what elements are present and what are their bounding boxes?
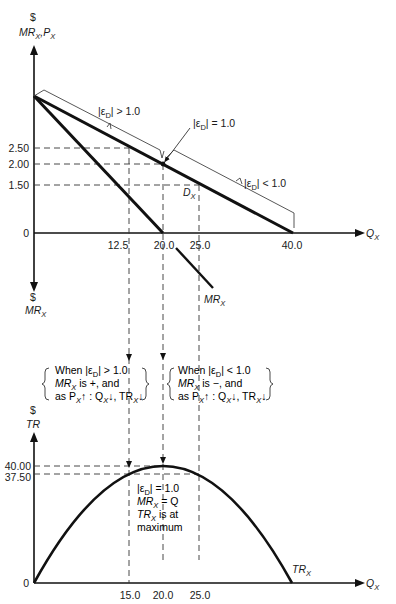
projection-arrow: [160, 353, 166, 360]
y-tick-2.00: 2.00: [9, 158, 30, 170]
projection-arrow: [126, 354, 132, 361]
mr-curve-negative: [176, 248, 213, 288]
unit-elastic-pointer: [166, 128, 190, 160]
tr-x-axis-label: QX: [366, 577, 380, 592]
svg-text:as PX↑ : QX↓, TRX↓: as PX↑ : QX↓, TRX↓: [178, 390, 266, 405]
elastic-note: When |εD| > 1.0 MRX is +, and as PX↑ : Q…: [42, 364, 149, 405]
y-tick-1.50: 1.50: [9, 179, 30, 191]
inelastic-note: When |εD| < 1.0 MRX is −, and as PX↑ : Q…: [167, 364, 273, 405]
x-tick-40.0: 40.0: [282, 239, 303, 251]
demand-label: DX: [183, 186, 197, 201]
y-tick-0: 0: [23, 227, 29, 239]
y-axis-label: MRX,PX: [19, 26, 56, 41]
neg-y-axis-label: MRX: [25, 304, 47, 319]
y-tick-2.50: 2.50: [9, 142, 30, 154]
tr-x-tick-20: 20.0: [153, 589, 174, 601]
x-tick-25.0: 25.0: [190, 239, 211, 251]
svg-text:as PX↑ : QX↓, TRX↓: as PX↑ : QX↓, TRX↓: [55, 390, 143, 405]
unit-elastic-point: [161, 162, 166, 167]
elasticity-diagram: $ MRX,PX $ MRX QX 2.50 2.00 1.50 0 12.5 …: [0, 0, 396, 604]
tr-y-tick-0: 0: [23, 577, 29, 589]
top-chart: $ MRX,PX $ MRX QX 2.50 2.00 1.50 0 12.5 …: [9, 11, 381, 560]
y-axis-unit: $: [30, 11, 36, 23]
tr-axis-label: TR: [26, 418, 40, 430]
tr-x-tick-15: 15.0: [120, 589, 141, 601]
tr-y-tick-37.5: 37.50: [5, 471, 31, 483]
tr-curve-label: TRX: [292, 563, 312, 578]
unit-elastic-label: |εD| = 1.0: [193, 117, 235, 132]
elastic-label: |εD| > 1.0: [98, 105, 140, 120]
tr-x-tick-25: 25.0: [190, 589, 211, 601]
x-tick-12.5: 12.5: [108, 239, 129, 251]
tr-max-note: |εD| = 1.0 MRX = Q TRX is at maximum: [137, 482, 183, 533]
x-axis-label: QX: [366, 227, 380, 242]
x-tick-20.0: 20.0: [154, 239, 175, 251]
neg-y-axis-unit: $: [30, 291, 36, 303]
tr-axis-unit: $: [30, 404, 36, 416]
bottom-chart: $ TR QX 40.00 37.50 0 15.0 20.0 25.0 TRX: [5, 404, 380, 601]
svg-text:maximum: maximum: [137, 521, 183, 533]
mr-label: MRX: [204, 293, 226, 308]
